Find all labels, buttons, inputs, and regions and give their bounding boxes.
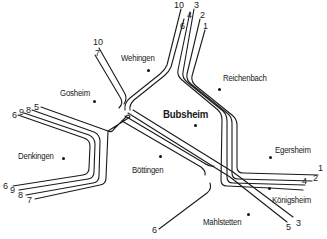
town-dot-koenigsheim bbox=[268, 187, 271, 190]
town-dot-wehingen bbox=[147, 69, 150, 72]
route-number-label: 7 bbox=[27, 196, 32, 205]
town-label-mahlstetten: Mahlstetten bbox=[203, 217, 241, 227]
route-number-label: 10 bbox=[174, 1, 184, 10]
town-dot-bubsheim bbox=[194, 124, 197, 127]
route-number-label: 2 bbox=[200, 11, 205, 20]
town-dot-reichenbach bbox=[218, 88, 221, 91]
route-number-label: 9 bbox=[19, 108, 24, 117]
town-label-gosheim: Gosheim bbox=[60, 88, 90, 98]
town-label-koenigsheim: Königsheim bbox=[272, 195, 311, 205]
route-number-label: 3 bbox=[194, 1, 199, 10]
route-line-6-north bbox=[130, 19, 184, 110]
town-dot-boettingen bbox=[159, 155, 162, 158]
route-number-label: 6 bbox=[3, 182, 8, 191]
route-number-label: 2 bbox=[313, 174, 318, 183]
route-number-label: 6 bbox=[180, 22, 185, 31]
route-number-label: 8 bbox=[26, 106, 31, 115]
route-number-label: 5 bbox=[34, 103, 39, 112]
town-label-boettingen: Böttingen bbox=[132, 165, 163, 175]
route-number-label: 8 bbox=[18, 191, 23, 200]
route-number-label: 10 bbox=[93, 38, 103, 47]
town-label-egersheim: Egersheim bbox=[275, 145, 311, 155]
route-number-label: 6 bbox=[152, 226, 157, 235]
route-line-3-se bbox=[133, 110, 293, 217]
town-dot-mahlstetten bbox=[247, 213, 250, 216]
route-line-4-north bbox=[178, 12, 303, 190]
town-label-bubsheim: Bubsheim bbox=[163, 108, 208, 120]
route-number-label: 4 bbox=[302, 177, 307, 186]
town-label-denkingen: Denkingen bbox=[18, 151, 54, 161]
route-number-label: 1 bbox=[203, 22, 208, 31]
route-number-label: 7 bbox=[95, 49, 100, 58]
route-number-label: 5 bbox=[286, 223, 291, 232]
town-dot-denkingen bbox=[62, 157, 65, 160]
town-dot-gosheim bbox=[93, 100, 96, 103]
route-number-label: 3 bbox=[296, 219, 301, 228]
town-label-reichenbach: Reichenbach bbox=[223, 73, 267, 83]
route-number-label: 9 bbox=[10, 186, 15, 195]
route-number-label: 6 bbox=[12, 111, 17, 120]
town-dot-egersheim bbox=[269, 156, 272, 159]
route-number-label: 1 bbox=[318, 164, 323, 173]
town-label-wehingen: Wehingen bbox=[121, 53, 155, 63]
route-number-label: 4 bbox=[187, 11, 192, 20]
